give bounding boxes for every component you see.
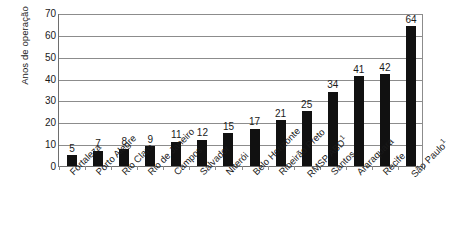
bar-group: 17 [242,14,268,166]
plot-area: 578911121517212534414264 [58,14,423,167]
bar-value-label: 25 [294,100,320,110]
bar-value-label: 15 [215,122,241,132]
bar-value-label: 64 [398,15,424,25]
bar-group: 5 [59,14,85,166]
bar-value-label: 41 [346,65,372,75]
x-axis-category-labels: FortalezaPorto AlegreRio ClaroRio de Jan… [58,170,435,245]
y-axis-tick-70: 70 [26,9,56,19]
y-axis-tick-labels: 706050403020100 [26,8,56,174]
bar[interactable] [406,26,416,166]
bar-value-label: 42 [372,63,398,73]
y-axis-tick-0: 0 [26,162,56,172]
y-axis-tick-40: 40 [26,75,56,85]
bar-group: 41 [346,14,372,166]
y-axis-tick-20: 20 [26,118,56,128]
bar-value-label: 5 [59,144,85,154]
bar-group: 64 [398,14,424,166]
bar[interactable] [354,76,364,166]
y-axis-tick-30: 30 [26,96,56,106]
bar-value-label: 17 [242,117,268,127]
y-axis-tick-10: 10 [26,140,56,150]
bar-value-label: 34 [320,80,346,90]
y-axis-tick-50: 50 [26,53,56,63]
bar-group: 15 [215,14,241,166]
bar-group: 12 [189,14,215,166]
bar-group: 9 [137,14,163,166]
bars-layer: 578911121517212534414264 [59,14,423,166]
bar-value-label: 21 [268,109,294,119]
y-axis-tick-60: 60 [26,31,56,41]
